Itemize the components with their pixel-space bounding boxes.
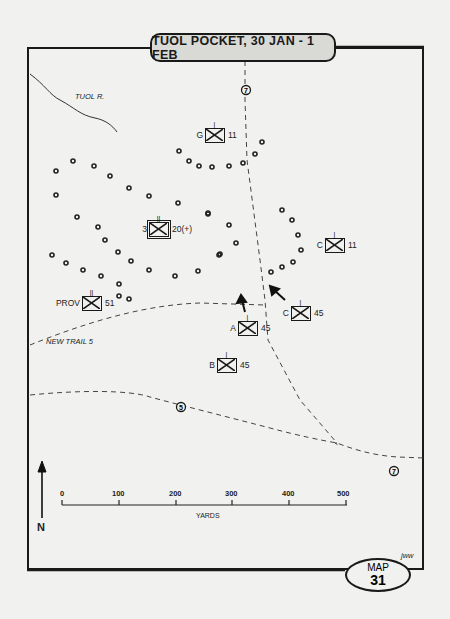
attack-arrow-c [270,286,285,300]
parent-unit: 11 [348,240,357,250]
svg-text:5: 5 [179,404,183,411]
svg-text:7: 7 [392,468,396,475]
infantry-symbol-icon [206,129,223,141]
unit-c-11: | [325,238,345,253]
trail-5 [30,391,424,458]
parent-unit: 20(+) [172,224,192,234]
parent-unit: 45 [261,323,270,333]
infantry-symbol-icon [326,239,343,251]
unit-designation: B [209,360,215,370]
scale-tick: 300 [225,489,238,498]
trail-label: NEW TRAIL 5 [46,337,93,346]
unit-g-11: | [205,128,225,143]
infantry-symbol-icon [83,297,100,309]
scale-tick: 400 [282,489,295,498]
svg-text:7: 7 [244,87,248,94]
infantry-symbol-icon [218,359,235,371]
parent-unit: 45 [314,308,323,318]
river-label: TUOL R. [75,92,104,101]
parent-unit: 45 [240,360,249,370]
north-arrow-icon [38,461,46,518]
title-text: TUOL POCKET, 30 JAN - 1 FEB [152,34,334,62]
unit-designation: G [196,130,203,140]
north-label: N [37,521,45,533]
route-marker-7-east: 7 [390,467,399,476]
route-marker-7-north: 7 [242,86,251,95]
badge-number: 31 [370,573,386,587]
map-number-badge: MAP 31 [345,558,411,592]
unit-designation: 3 [142,224,147,234]
infantry-symbol-icon [239,322,256,334]
scale-tick: 500 [337,489,350,498]
unit-designation: C [317,240,323,250]
scale-tick: 100 [112,489,125,498]
unit-b-45: | [217,358,237,373]
signature: jww [401,551,414,560]
scale-bar [62,500,347,505]
parent-unit: 11 [228,130,237,140]
attack-arrow-a [237,295,246,312]
tuol-river [30,74,117,132]
scale-tick: 0 [60,489,64,498]
map-title: TUOL POCKET, 30 JAN - 1 FEB [150,33,336,62]
scale-tick: 200 [169,489,182,498]
scale-unit-label: YARDS [196,512,220,519]
unit-prov-51: || [82,296,102,311]
defensive-positions [50,140,303,301]
map-graphics: 7 5 7 [0,0,450,619]
parent-unit: 51 [105,298,114,308]
unit-designation: C [283,308,289,318]
unit-a-45: | [238,321,258,336]
infantry-symbol-icon [292,307,309,319]
unit-designation: A [230,323,236,333]
unit-c-45: | [291,306,311,321]
route-marker-5: 5 [177,403,186,412]
unit-3-20: || [149,222,169,237]
unit-designation: PROV [56,298,80,308]
infantry-symbol-icon [150,223,167,235]
